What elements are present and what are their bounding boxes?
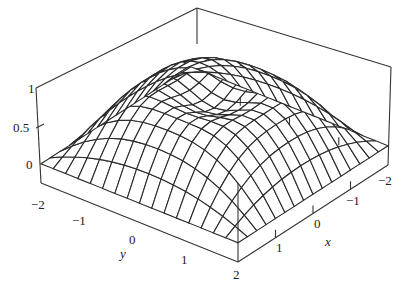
y-tick-label: −1 (72, 214, 86, 227)
y-axis-title: y (120, 247, 126, 260)
y-tick-label: 2 (233, 268, 240, 281)
x-tick-label: 0 (314, 217, 321, 230)
x-tick-label: −1 (346, 194, 360, 207)
x-axis-title: x (325, 235, 331, 248)
surface-mesh (41, 58, 388, 243)
x-tick-label: 1 (276, 241, 283, 254)
surface-plot (0, 0, 404, 287)
z-tick-label: 0 (26, 158, 33, 171)
y-tick-label: −2 (31, 198, 45, 211)
y-tick-label: 1 (181, 253, 188, 266)
z-tick-label: 0.5 (13, 121, 29, 134)
y-tick-label: 0 (129, 233, 136, 246)
x-tick-label: −2 (378, 174, 392, 187)
z-tick-label: 1 (28, 82, 35, 95)
